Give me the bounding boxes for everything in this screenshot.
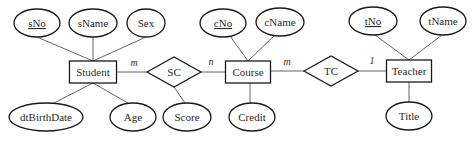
entity-label: Teacher: [392, 65, 427, 77]
attribute-label: Credit: [238, 111, 266, 123]
edge-cName-course: [248, 35, 275, 61]
relationship-label: TC: [324, 65, 338, 77]
attribute-sNo: sNo: [14, 9, 60, 37]
cardinality-label: m: [130, 57, 137, 68]
relationship-sc: SC: [147, 57, 201, 87]
attribute-tNo: tNo: [349, 7, 397, 35]
attribute-label: cNo: [214, 17, 233, 29]
entity-teacher: Teacher: [387, 60, 432, 82]
attribute-label: sNo: [28, 17, 46, 29]
attribute-sex: Sex: [127, 9, 165, 37]
edge-tNo-teacher: [375, 35, 409, 60]
attribute-sName: sName: [69, 9, 117, 37]
attribute-score: Score: [163, 103, 211, 131]
edge-cNo-course: [230, 36, 248, 61]
attribute-label: dtBirthDate: [20, 111, 72, 123]
edge-sc-score: [174, 87, 185, 103]
attribute-label: Sex: [138, 17, 155, 29]
attribute-label: Score: [174, 111, 199, 123]
edge-sex-student: [93, 37, 146, 61]
edge-student-dtBirthDate: [52, 83, 93, 104]
relationship-label: SC: [167, 66, 180, 78]
attribute-tName: tName: [420, 7, 466, 35]
cardinality-label: 1: [370, 55, 375, 66]
entities: StudentCourseTeacher: [70, 60, 432, 83]
cardinality-label: m: [283, 56, 290, 67]
attribute-cNo: cNo: [200, 9, 246, 37]
entity-label: Course: [232, 66, 263, 78]
entity-student: Student: [70, 61, 117, 83]
entity-course: Course: [226, 61, 271, 83]
attribute-cName: cName: [256, 8, 304, 36]
attribute-label: Title: [399, 110, 420, 122]
attribute-dtBirthDate: dtBirthDate: [9, 103, 83, 131]
cardinality-label: n: [209, 56, 214, 67]
attribute-label: Age: [124, 111, 142, 123]
edge-tName-teacher: [409, 35, 442, 60]
relationship-tc: TC: [304, 56, 358, 86]
attribute-label: sName: [78, 17, 109, 29]
attribute-title: Title: [386, 102, 432, 130]
attribute-age: Age: [110, 103, 156, 131]
attribute-label: tNo: [365, 15, 382, 27]
attribute-label: cName: [264, 16, 295, 28]
entity-label: Student: [76, 66, 110, 78]
edge-student-age: [93, 83, 128, 103]
attribute-label: tName: [428, 15, 457, 27]
er-diagram: sNosNameSexdtBirthDateAgeScorecNocNameCr…: [0, 0, 473, 141]
edge-sNo-student: [37, 37, 93, 61]
attribute-credit: Credit: [229, 103, 275, 131]
